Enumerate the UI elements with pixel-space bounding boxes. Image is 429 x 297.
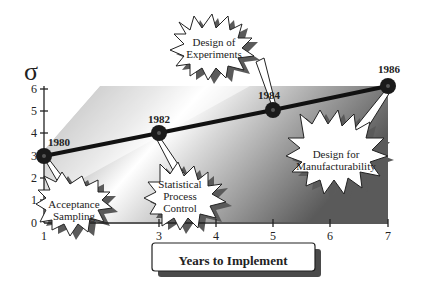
y-tick-2: 2 — [31, 171, 37, 185]
callout-text-manufacturability: Manufacturability — [296, 160, 376, 172]
x-tick-7: 7 — [385, 229, 391, 243]
y-axis-label: σ — [24, 57, 38, 86]
y-tick-4: 4 — [31, 126, 37, 140]
label-1984: 1984 — [258, 89, 281, 101]
label-1982: 1982 — [148, 113, 171, 125]
y-tick-0: 0 — [31, 216, 37, 230]
x-tick-3: 3 — [156, 229, 162, 243]
x-tick-4: 4 — [213, 229, 219, 243]
callout-text-experiments: Experiments — [186, 48, 242, 60]
callout-text-statistical: Statistical — [158, 178, 201, 190]
x-tick-1: 1 — [41, 229, 47, 243]
callout-text-design-of: Design of — [192, 36, 235, 48]
callout-text-design-for: Design for — [313, 148, 360, 160]
x-tick-5: 5 — [270, 229, 276, 243]
label-1980: 1980 — [48, 136, 71, 148]
x-tick-6: 6 — [327, 229, 333, 243]
callout-text-process: Process — [163, 190, 197, 202]
callout-text-control: Control — [163, 202, 197, 214]
y-tick-1: 1 — [31, 193, 37, 207]
y-tick-5: 5 — [31, 104, 37, 118]
x-axis-label: Years to Implement — [178, 253, 288, 268]
callout-text-acceptance: Acceptance — [48, 198, 99, 210]
label-1986: 1986 — [378, 63, 401, 75]
x-axis-label-box: Years to Implement — [152, 243, 321, 277]
callout-text-sampling: Sampling — [53, 210, 96, 222]
chart: 6 5 4 3 2 1 0 σ 1 3 4 5 6 7 1980 1982 19… — [0, 0, 429, 297]
